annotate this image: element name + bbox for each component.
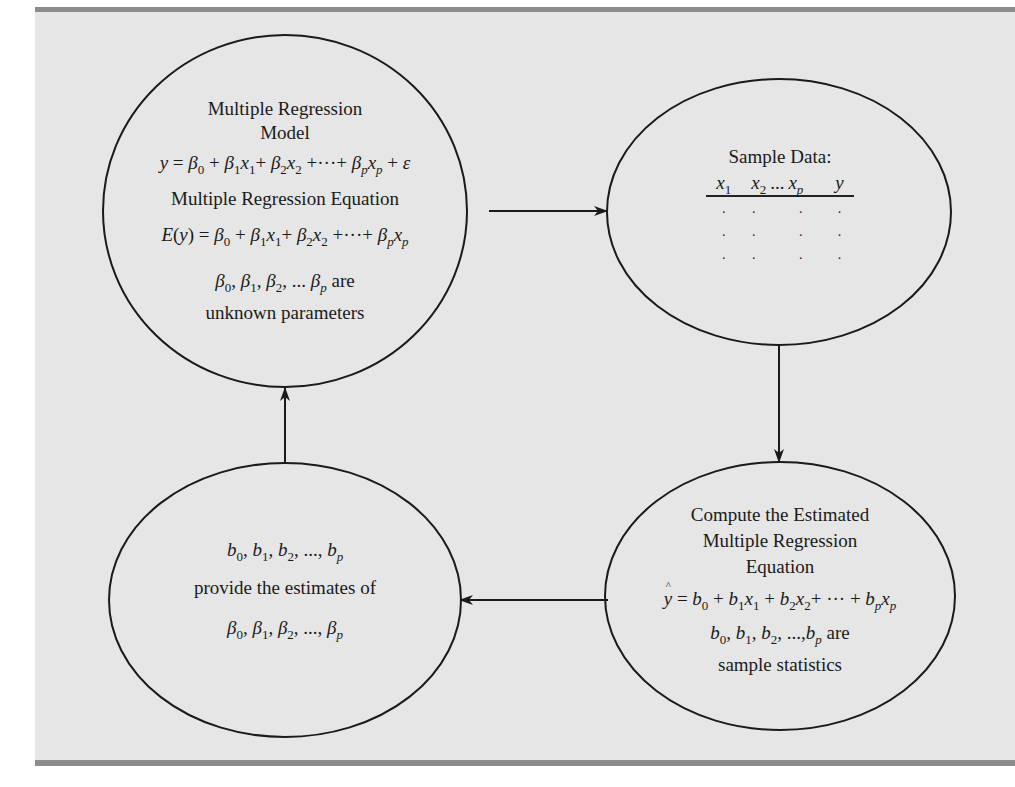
compute-title-line1: Compute the Estimated [620,505,940,531]
table-row: .... [706,243,854,266]
sample-data-table: x1 x2 ... xp y .... .... .... [706,173,854,266]
estimators-line: b0, b1, b2, ..., bp [115,540,455,578]
col-xp: xp [788,173,813,196]
col-x2: x2 [741,173,766,196]
col-y: y [813,173,853,196]
unknown-params-caption: unknown parameters [105,303,465,322]
model-title-line2: Model [105,123,465,153]
table-row: .... [706,220,854,243]
estimated-equation: y = b0 + b1x1 + b2x2+ ··· + bpxp [620,589,940,623]
col-x1: x1 [706,173,741,196]
parameters-line: β0, β1, β2, ..., βp [115,618,455,637]
sample-stats-line: b0, b1, b2, ...,bp are [620,623,940,655]
sample-data-node: Sample Data: x1 x2 ... xp y .... .... ..… [655,147,905,266]
model-equation-title: Multiple Regression Equation [105,189,465,225]
table-row: .... [706,196,854,220]
estimates-caption: provide the estimates of [115,578,455,618]
estimates-node: b0, b1, b2, ..., bp provide the estimate… [115,540,455,637]
regression-equation: E(y) = β0 + β1x1+ β2x2 +···+ βpxp [105,225,465,271]
unknown-params-line: β0, β1, β2, ... βp are [105,271,465,303]
sample-data-title: Sample Data: [655,147,905,173]
model-equation: y = β0 + β1x1+ β2x2 +···+ βpxp + ε [105,153,465,189]
col-ellipsis: ... [766,173,788,196]
sample-data-header-row: x1 x2 ... xp y [706,173,854,196]
compute-node: Compute the Estimated Multiple Regressio… [620,505,940,674]
model-node: Multiple Regression Model y = β0 + β1x1+… [105,99,465,322]
sample-stats-caption: sample statistics [620,655,940,674]
compute-title-line2: Multiple Regression [620,531,940,557]
model-title-line1: Multiple Regression [105,99,465,123]
